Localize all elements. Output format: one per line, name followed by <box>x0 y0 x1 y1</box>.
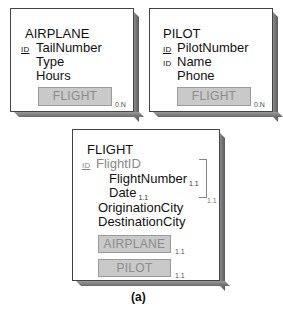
group-cardinality: 1.1 <box>207 197 217 204</box>
cardinality: 0.N <box>115 101 126 108</box>
attribute-destinationcity: DestinationCity <box>98 215 185 229</box>
object-3d-edge <box>273 12 278 122</box>
object-title: AIRPLANE <box>25 27 89 41</box>
id-tag: ID <box>163 45 171 54</box>
id-tag: ID <box>82 161 90 170</box>
object-3d-edge <box>134 12 139 122</box>
cardinality: 1.1 <box>175 272 185 279</box>
id-tag: ID <box>163 59 171 68</box>
attribute-label: FlightNumber <box>109 171 187 186</box>
airplane-object: AIRPLANE ID TailNumber Type Hours FLIGHT… <box>10 8 134 112</box>
flight-reference: FLIGHT <box>38 87 112 106</box>
figure-caption: (a) <box>131 290 146 304</box>
pilot-object: PILOT ID PilotNumber ID Name Phone FLIGH… <box>149 8 273 112</box>
group-flightid: FlightID <box>96 157 141 171</box>
flight-reference: FLIGHT <box>177 87 251 106</box>
attribute-originationcity: OriginationCity <box>98 201 183 215</box>
object-title: FLIGHT <box>87 143 133 157</box>
object-3d-edge <box>14 112 144 117</box>
pilot-reference: PILOT <box>98 259 171 277</box>
object-3d-edge <box>153 112 283 117</box>
attribute-hours: Hours <box>36 69 71 83</box>
group-bracket <box>199 159 207 198</box>
attribute-label: Date <box>109 185 136 200</box>
attribute-type: Type <box>36 55 64 69</box>
attribute-name: Name <box>177 55 212 69</box>
object-3d-edge <box>220 133 225 291</box>
object-3d-edge <box>76 281 230 286</box>
attribute-tailnumber: TailNumber <box>36 41 102 55</box>
id-tag: ID <box>21 45 29 54</box>
attribute-pilotnumber: PilotNumber <box>177 41 249 55</box>
object-title: PILOT <box>163 27 201 41</box>
attribute-phone: Phone <box>177 69 215 83</box>
flight-object: FLIGHT ID FlightID FlightNumber1.1 Date1… <box>72 129 220 281</box>
cardinality: 1.1 <box>175 248 185 255</box>
cardinality: 1.1 <box>189 180 199 187</box>
cardinality: 0.N <box>254 101 265 108</box>
airplane-reference: AIRPLANE <box>98 235 171 253</box>
